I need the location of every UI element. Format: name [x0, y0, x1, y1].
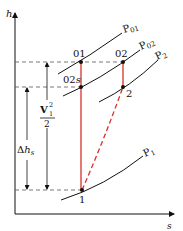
label-02: 02: [115, 48, 128, 59]
point-02: [121, 60, 125, 64]
label-01: 01: [73, 48, 86, 59]
label-p01: P01: [121, 20, 140, 37]
s-axis-label: s: [167, 221, 172, 231]
label-p1: P1: [141, 144, 157, 161]
h-axis-label: h: [6, 8, 12, 19]
hs-diagram: h s P01 P02 P2 P1 01 02 02s 2: [0, 0, 183, 231]
kinetic-sub: 1: [49, 110, 53, 118]
isobar-p01: [58, 33, 122, 74]
point-1: [80, 188, 84, 192]
label-1: 1: [79, 194, 85, 205]
point-labels: 01 02 02s 2 1: [63, 48, 132, 205]
label-2: 2: [126, 88, 132, 99]
kinetic-energy-label: V 2 1 2: [39, 101, 55, 129]
delta-h-label: Δhs: [17, 144, 35, 157]
label-02s: 02s: [63, 74, 81, 85]
point-02s: [79, 85, 83, 89]
kinetic-numerator: V: [39, 104, 48, 115]
isobar-p1: [61, 156, 143, 200]
kinetic-denominator: 2: [44, 119, 50, 129]
state-points: [79, 60, 125, 192]
point-2: [121, 85, 125, 89]
delta-h-text: Δhs: [17, 144, 35, 157]
kinetic-sup: 2: [49, 101, 53, 109]
point-01: [79, 60, 83, 64]
label-p2: P2: [153, 47, 169, 64]
process-lines: [81, 62, 123, 190]
